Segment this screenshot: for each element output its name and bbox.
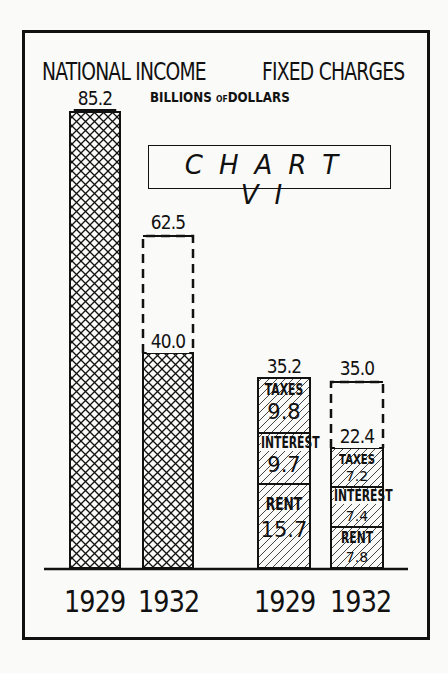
segment-value: 9.7	[258, 455, 310, 476]
segment-interest-1929: INTEREST 9.7	[258, 433, 310, 484]
segment-label: RENT	[261, 496, 307, 513]
value-ni-1932-dashed: 62.5	[147, 210, 190, 234]
value-ni-1929: 85.2	[74, 87, 117, 111]
value-ni-1932: 40.0	[147, 329, 190, 353]
segment-value: 7.8	[331, 550, 383, 564]
segment-taxes-1929: TAXES 9.8	[258, 378, 310, 433]
year-fc-1932: 1932	[330, 584, 392, 619]
year-ni-1932: 1932	[138, 584, 200, 619]
segment-label: RENT	[334, 531, 380, 546]
value-fc-1929-total: 35.2	[262, 354, 306, 378]
segment-label: INTEREST	[334, 489, 380, 504]
year-ni-1929: 1929	[64, 584, 126, 619]
value-fc-1932-total: 22.4	[335, 424, 379, 448]
segment-label: INTEREST	[261, 436, 307, 451]
value-fc-1932-dashed: 35.0	[335, 356, 379, 380]
year-fc-1929: 1929	[254, 584, 316, 619]
segment-label: TAXES	[334, 452, 380, 466]
segment-rent-1929: RENT 15.7	[258, 484, 310, 568]
segment-interest-1932: INTEREST 7.4	[331, 487, 383, 527]
segment-value: 7.4	[331, 509, 383, 523]
bar-national-income-1929	[70, 112, 120, 568]
segment-value: 7.2	[331, 469, 383, 483]
bars-canvas	[0, 0, 448, 673]
segment-rent-1932: RENT 7.8	[331, 527, 383, 568]
bar-national-income-1932	[143, 353, 193, 568]
segment-label: TAXES	[261, 383, 307, 398]
segment-value: 9.8	[258, 402, 310, 423]
segment-taxes-1932: TAXES 7.2	[331, 448, 383, 487]
segment-value: 15.7	[258, 520, 310, 541]
